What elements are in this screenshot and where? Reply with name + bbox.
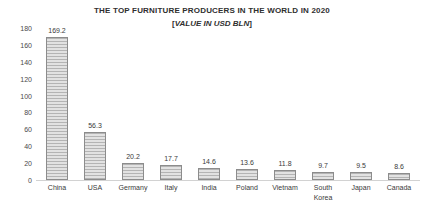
bar-slot: 17.7	[152, 28, 190, 180]
x-axis-category-line: Canada	[377, 183, 421, 193]
y-axis-tick: 60	[0, 126, 32, 133]
y-axis: 180160140120100806040200	[0, 28, 32, 180]
bar-value-label: 9.7	[303, 162, 343, 170]
bar-slot: 13.6	[228, 28, 266, 180]
bar-slot: 11.8	[266, 28, 304, 180]
bar-slot: 56.3	[76, 28, 114, 180]
bar-value-label: 56.3	[75, 122, 115, 130]
x-axis-line	[36, 180, 420, 181]
bar-slot: 20.2	[114, 28, 152, 180]
subtitle-bracket-right: ]	[249, 19, 252, 28]
page-title: THE TOP FURNITURE PRODUCERS IN THE WORLD…	[0, 5, 424, 17]
y-axis-tick: 180	[0, 25, 32, 32]
bar[interactable]	[160, 165, 182, 180]
y-axis-tick: 120	[0, 75, 32, 82]
y-axis-tick: 0	[0, 177, 32, 184]
x-axis-category-line: Korea	[301, 193, 345, 203]
y-axis-tick: 100	[0, 92, 32, 99]
bar-slot: 169.2	[38, 28, 76, 180]
y-axis-tick: 80	[0, 109, 32, 116]
subtitle-text: VALUE IN USD BLN	[175, 19, 250, 28]
bar-slot: 9.5	[342, 28, 380, 180]
bar-value-label: 14.6	[189, 158, 229, 166]
bar[interactable]	[46, 37, 68, 180]
bar-value-label: 17.7	[151, 155, 191, 163]
bar[interactable]	[274, 170, 296, 180]
bar[interactable]	[198, 168, 220, 180]
y-axis-tick: 160	[0, 41, 32, 48]
bar-chart: THE TOP FURNITURE PRODUCERS IN THE WORLD…	[0, 0, 424, 215]
x-axis-labels: ChinaUSAGermanyItalyIndiaPolandVietnamSo…	[36, 183, 420, 213]
bar-value-label: 8.6	[379, 163, 419, 171]
bar-series: 169.256.320.217.714.613.611.89.79.58.6	[36, 28, 420, 180]
bar-value-label: 9.5	[341, 162, 381, 170]
bar[interactable]	[388, 173, 410, 180]
bar-value-label: 169.2	[37, 27, 77, 35]
bar-slot: 8.6	[380, 28, 418, 180]
bar-value-label: 13.6	[227, 159, 267, 167]
bar[interactable]	[236, 169, 258, 180]
x-axis-category-label: Canada	[377, 183, 421, 193]
bar-value-label: 11.8	[265, 160, 305, 168]
y-axis-tick: 40	[0, 143, 32, 150]
bar-slot: 9.7	[304, 28, 342, 180]
bar[interactable]	[122, 163, 144, 180]
bar-slot: 14.6	[190, 28, 228, 180]
bar-value-label: 20.2	[113, 153, 153, 161]
bar[interactable]	[84, 132, 106, 180]
y-axis-tick: 140	[0, 58, 32, 65]
bar[interactable]	[350, 172, 372, 180]
y-axis-tick: 20	[0, 160, 32, 167]
bar[interactable]	[312, 172, 334, 180]
